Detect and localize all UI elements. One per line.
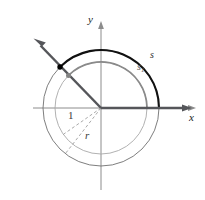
arc-s-label: s (150, 50, 154, 60)
arc-s (60, 50, 159, 108)
arc-s1-label: s1 (137, 62, 144, 74)
inner-intersection-point (66, 73, 71, 78)
radius-unit-label: 1 (68, 110, 74, 121)
figure-container: y x s s1 1 r (0, 0, 205, 200)
radius-r-label: r (85, 130, 89, 141)
x-axis-label: x (189, 112, 194, 123)
outer-intersection-point (57, 64, 62, 69)
y-axis-label: y (88, 14, 93, 25)
arc-s1-label-subscript: 1 (141, 66, 145, 74)
geometry-diagram (0, 0, 205, 200)
